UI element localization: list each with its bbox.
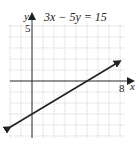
- line-chart: 3x − 5y = 15 y 5 8 x: [0, 0, 139, 151]
- equation-line: [10, 61, 120, 127]
- y-tick-label: 5: [25, 22, 31, 34]
- y-axis-label: y: [24, 10, 29, 22]
- x-tick-label: 8: [119, 82, 125, 94]
- x-axis-label: x: [130, 80, 135, 92]
- chart-title: 3x − 5y = 15: [44, 10, 107, 25]
